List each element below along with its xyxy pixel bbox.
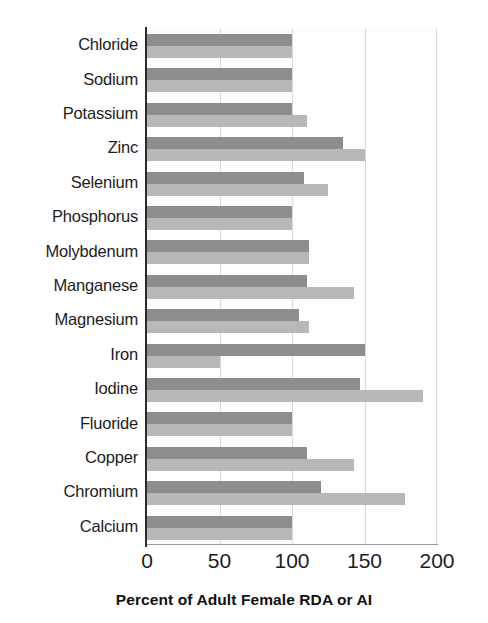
bar-light (147, 149, 365, 161)
bar-group (147, 511, 437, 545)
bar-light (147, 459, 354, 471)
bar-dark (147, 68, 292, 80)
plot-area (147, 29, 437, 545)
category-label: Molybdenum (7, 242, 147, 261)
bar-dark (147, 206, 292, 218)
x-tick-label: 150 (347, 549, 382, 573)
category-label: Chloride (7, 35, 147, 54)
bar-light (147, 528, 292, 540)
bar-group (147, 235, 437, 269)
bar-light (147, 80, 292, 92)
bar-group (147, 29, 437, 63)
category-label: Fluoride (7, 414, 147, 433)
bar-light (147, 115, 307, 127)
category-label: Potassium (7, 104, 147, 123)
bar-light (147, 356, 220, 368)
x-axis-title: Percent of Adult Female RDA or AI (0, 591, 488, 609)
chart-container: ChlorideSodiumPotassiumZincSeleniumPhosp… (0, 0, 488, 623)
bar-group (147, 476, 437, 510)
bar-dark (147, 137, 343, 149)
category-label: Manganese (7, 276, 147, 295)
bar-light (147, 390, 423, 402)
bar-group (147, 98, 437, 132)
bar-dark (147, 378, 360, 390)
bar-group (147, 132, 437, 166)
bar-dark (147, 481, 321, 493)
bar-dark (147, 412, 292, 424)
category-label: Iron (7, 345, 147, 364)
bar-dark (147, 103, 292, 115)
x-axis-line (147, 544, 438, 545)
bar-group (147, 373, 437, 407)
category-label: Chromium (7, 482, 147, 501)
category-label: Zinc (7, 138, 147, 157)
bar-group (147, 63, 437, 97)
category-label: Calcium (7, 517, 147, 536)
bar-light (147, 184, 328, 196)
bar-group (147, 270, 437, 304)
bar-light (147, 493, 405, 505)
category-axis-labels: ChlorideSodiumPotassiumZincSeleniumPhosp… (0, 29, 147, 545)
category-label: Selenium (7, 173, 147, 192)
category-label: Iodine (7, 379, 147, 398)
bar-group (147, 167, 437, 201)
bar-dark (147, 34, 292, 46)
x-tick-label: 50 (208, 549, 231, 573)
bar-light (147, 321, 309, 333)
bar-dark (147, 309, 299, 321)
bar-group (147, 442, 437, 476)
category-label: Phosphorus (7, 207, 147, 226)
x-tick-label: 0 (141, 549, 153, 573)
bar-dark (147, 447, 307, 459)
bar-group (147, 304, 437, 338)
bar-group (147, 407, 437, 441)
x-tick-label: 100 (274, 549, 309, 573)
category-label: Magnesium (7, 310, 147, 329)
bar-dark (147, 275, 307, 287)
bar-dark (147, 240, 309, 252)
bar-light (147, 424, 292, 436)
bar-light (147, 218, 292, 230)
bar-dark (147, 172, 304, 184)
bar-dark (147, 516, 292, 528)
x-tick-label: 200 (419, 549, 454, 573)
bar-light (147, 252, 309, 264)
bar-light (147, 287, 354, 299)
bar-group (147, 339, 437, 373)
bar-group (147, 201, 437, 235)
category-label: Sodium (7, 70, 147, 89)
category-label: Copper (7, 448, 147, 467)
bar-light (147, 46, 292, 58)
bar-dark (147, 344, 365, 356)
